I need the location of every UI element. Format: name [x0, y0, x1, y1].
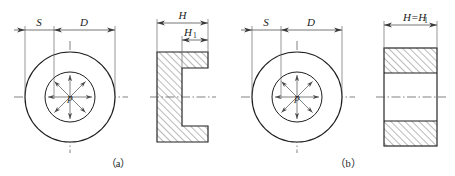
dim-label-a-h1: H [183, 26, 193, 38]
dim-label-a-h: H [178, 9, 188, 21]
pressure-label-a: p [66, 92, 72, 103]
drawing-canvas: p S D [0, 0, 455, 176]
caption-b: （b） [335, 158, 360, 169]
dim-label-b-d: D [306, 16, 315, 28]
engineering-drawing-figure: p S D [0, 0, 455, 176]
caption-a: （a） [106, 158, 131, 169]
panel-b-section-view [376, 42, 446, 153]
dim-label-b-h-subscript: 1 [424, 16, 428, 25]
dim-label-a-s: S [36, 16, 42, 28]
dim-label-b-s: S [263, 16, 269, 28]
pressure-label-b: p [293, 92, 299, 103]
dim-label-a-d: D [79, 16, 88, 28]
dim-label-a-h1-subscript: 1 [193, 31, 197, 40]
